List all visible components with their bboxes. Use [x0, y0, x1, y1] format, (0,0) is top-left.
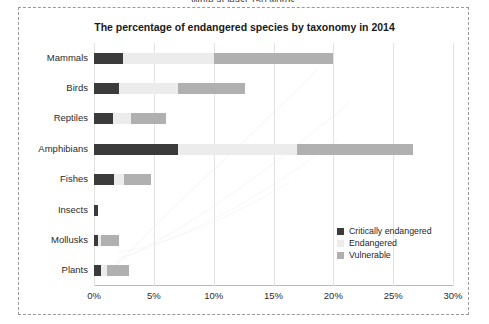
category-label-amphibians: Amphibians — [38, 143, 88, 155]
chart-legend: Critically endangered Endangered Vulnera… — [337, 226, 432, 262]
gridline-5 — [154, 43, 155, 286]
bar-segment-plants-critically-endangered — [94, 265, 101, 276]
cut-off-instruction-text: Write at least 150 words. — [0, 0, 489, 2]
category-label-birds: Birds — [66, 82, 88, 94]
bar-row-reptiles: Reptiles — [94, 113, 453, 124]
bar-segment-mammals-critically-endangered — [94, 53, 123, 64]
bar-segment-birds-critically-endangered — [94, 83, 119, 94]
gridline-20 — [333, 43, 334, 286]
bar-segment-fishes-vulnerable — [124, 174, 152, 185]
legend-item: Critically endangered — [337, 226, 432, 236]
gridline-0 — [94, 43, 95, 286]
x-tick-label-0: 0% — [87, 290, 101, 301]
bar-segment-insects-critically-endangered — [94, 205, 98, 216]
legend-swatch-critically-endangered — [337, 228, 344, 235]
bar-segment-amphibians-vulnerable — [297, 144, 413, 155]
bar-row-amphibians: Amphibians — [94, 144, 453, 155]
x-tick-label-25: 25% — [384, 290, 403, 301]
bar-segment-plants-vulnerable — [107, 265, 129, 276]
bar-segment-reptiles-endangered — [113, 113, 131, 124]
bar-segment-fishes-endangered — [114, 174, 124, 185]
category-label-reptiles: Reptiles — [54, 112, 88, 124]
bar-segment-birds-vulnerable — [178, 83, 245, 94]
legend-item: Vulnerable — [337, 250, 432, 260]
bar-row-birds: Birds — [94, 83, 453, 94]
x-tick-label-10: 10% — [204, 290, 223, 301]
legend-label-vulnerable: Vulnerable — [349, 250, 391, 260]
bar-row-mammals: Mammals — [94, 53, 453, 64]
x-tick-label-15: 15% — [264, 290, 283, 301]
gridline-15 — [274, 43, 275, 286]
legend-item: Endangered — [337, 238, 432, 248]
category-label-mammals: Mammals — [47, 52, 88, 64]
legend-swatch-endangered — [337, 240, 344, 247]
x-tick-label-5: 5% — [147, 290, 161, 301]
chart-frame: The percentage of endangered species by … — [18, 7, 469, 315]
bar-row-fishes: Fishes — [94, 174, 453, 185]
bar-segment-amphibians-critically-endangered — [94, 144, 178, 155]
bar-segment-amphibians-endangered — [178, 144, 298, 155]
category-label-mollusks: Mollusks — [51, 234, 88, 246]
category-label-fishes: Fishes — [60, 173, 88, 185]
chart-title: The percentage of endangered species by … — [19, 21, 470, 33]
gridline-10 — [214, 43, 215, 286]
bar-segment-mammals-endangered — [123, 53, 214, 64]
bar-segment-fishes-critically-endangered — [94, 174, 114, 185]
bar-segment-reptiles-vulnerable — [131, 113, 166, 124]
bar-segment-mollusks-vulnerable — [101, 235, 119, 246]
legend-swatch-vulnerable — [337, 252, 344, 259]
gridline-30 — [453, 43, 454, 286]
bar-row-plants: Plants — [94, 265, 453, 276]
category-label-plants: Plants — [62, 264, 88, 276]
x-tick-label-30: 30% — [443, 290, 462, 301]
category-label-insects: Insects — [58, 204, 88, 216]
bar-segment-birds-endangered — [119, 83, 178, 94]
bar-segment-reptiles-critically-endangered — [94, 113, 113, 124]
x-tick-label-20: 20% — [324, 290, 343, 301]
legend-label-endangered: Endangered — [349, 238, 397, 248]
bar-row-insects: Insects — [94, 205, 453, 216]
legend-label-critically-endangered: Critically endangered — [349, 226, 432, 236]
bar-segment-mammals-vulnerable — [214, 53, 334, 64]
